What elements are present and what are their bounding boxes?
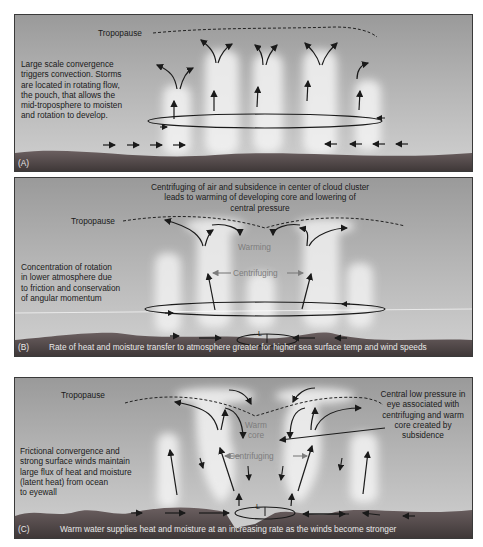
low-pressure-marker: L [256, 502, 260, 512]
tropopause-label: Tropopause [98, 28, 142, 38]
centrifuging-label: Centrifuging [229, 451, 274, 461]
panel-b-top-note: Centrifuging of air and subsidence in ce… [135, 182, 385, 213]
warming-label: Warming [238, 242, 271, 252]
low-pressure-marker: L [258, 329, 262, 339]
panel-c-caption-bar: (C) Warm water supplies heat and moistur… [15, 522, 472, 536]
panel-b-label: (B) [18, 340, 29, 354]
panel-c-mature-stage: Tropopause Central low pressure in eye a… [14, 377, 473, 539]
panel-a-convection-stage: Tropopause Large scale convergence trigg… [14, 14, 473, 172]
panel-b-caption-bar: (B) Rate of heat and moisture transfer t… [15, 340, 472, 354]
ocean-surface [15, 151, 472, 171]
tropopause-label: Tropopause [61, 390, 105, 400]
panel-a-description: Large scale convergence triggers convect… [21, 59, 151, 121]
cloud-columns [163, 50, 381, 155]
warm-core-label: Warm core [241, 420, 271, 441]
panel-a-label: (A) [18, 158, 29, 168]
cloud-eyewall [157, 388, 378, 508]
panel-c-label: (C) [18, 522, 30, 536]
tropopause-line [153, 27, 377, 37]
tropopause-label: Tropopause [71, 216, 115, 226]
centrifuging-label: Centrifuging [233, 268, 278, 278]
tropopause-line [123, 217, 405, 228]
panel-b-intensification-stage: Centrifuging of air and subsidence in ce… [14, 177, 473, 357]
panel-b-description: Concentration of rotation in lower atmos… [21, 262, 151, 303]
panel-b-caption: Rate of heat and moisture transfer to at… [49, 340, 427, 354]
panel-c-description: Frictional convergence and strong surfac… [20, 446, 160, 497]
panel-c-caption: Warm water supplies heat and moisture at… [60, 522, 396, 536]
panel-c-right-note: Central low pressure in eye associated w… [373, 389, 473, 440]
